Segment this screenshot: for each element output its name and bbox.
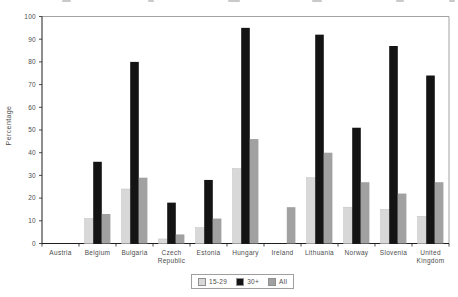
svg-text:Slovenia: Slovenia — [380, 249, 407, 256]
chart-legend: 15-29 30+ All — [191, 274, 294, 289]
y-axis-title: Percentage — [5, 95, 12, 157]
svg-text:Hungary: Hungary — [232, 249, 259, 257]
svg-text:Austria: Austria — [49, 249, 71, 256]
legend-item-15-29: 15-29 — [198, 278, 227, 286]
svg-text:90: 90 — [28, 36, 36, 43]
svg-text:Kingdom: Kingdom — [417, 257, 445, 265]
svg-text:20: 20 — [28, 194, 36, 201]
svg-text:United: United — [420, 249, 441, 256]
legend-label-30plus: 30+ — [247, 278, 259, 285]
svg-text:Ireland: Ireland — [272, 249, 294, 256]
svg-text:Bulgaria: Bulgaria — [121, 249, 147, 257]
legend-label-all: All — [279, 278, 287, 285]
legend-item-30plus: 30+ — [236, 278, 259, 286]
legend-swatch-30plus — [236, 278, 244, 286]
svg-text:10: 10 — [28, 217, 36, 224]
svg-text:Republic: Republic — [158, 257, 186, 265]
legend-item-all: All — [268, 278, 287, 286]
legend-swatch-15-29 — [198, 278, 206, 286]
svg-text:Estonia: Estonia — [197, 249, 221, 256]
svg-text:80: 80 — [28, 58, 36, 65]
svg-text:Lithuania: Lithuania — [305, 249, 334, 256]
svg-text:Czech: Czech — [162, 249, 182, 256]
svg-text:100: 100 — [24, 13, 36, 20]
scanned-chart-page: 0102030405060708090100AustriaBelgiumBulg… — [0, 0, 458, 297]
svg-text:70: 70 — [28, 81, 36, 88]
bar-chart-canvas: 0102030405060708090100AustriaBelgiumBulg… — [0, 0, 458, 297]
svg-text:30: 30 — [28, 172, 36, 179]
legend-label-15-29: 15-29 — [209, 278, 227, 285]
svg-text:60: 60 — [28, 104, 36, 111]
svg-text:Norway: Norway — [345, 249, 369, 257]
svg-text:0: 0 — [32, 240, 36, 247]
legend-swatch-all — [268, 278, 276, 286]
svg-text:Belgium: Belgium — [85, 249, 111, 257]
svg-text:40: 40 — [28, 149, 36, 156]
svg-text:50: 50 — [28, 126, 36, 133]
